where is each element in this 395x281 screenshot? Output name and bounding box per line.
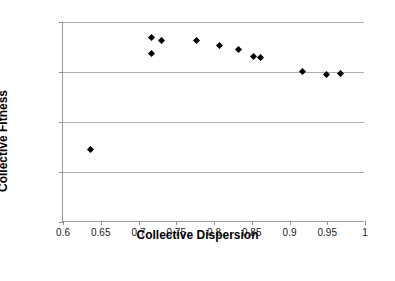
gridline-y-90 [63,22,364,23]
plot-area: 5060708090 0.60.650.70.750.80.850.90.951 [62,22,364,222]
x-tick-mark-0.9 [290,221,291,225]
chart-figure: 5060708090 0.60.650.70.750.80.850.90.951… [0,0,395,281]
y-tick-mark-60 [59,172,63,173]
y-tick-mark-80 [59,72,63,73]
y-tick-mark-70 [59,122,63,123]
gridline-y-60 [63,172,364,173]
scatter-point [87,145,94,152]
gridline-y-70 [63,122,364,123]
x-tick-mark-0.75 [176,221,177,225]
y-tick-mark-90 [59,22,63,23]
scatter-point [235,45,242,52]
scatter-point [257,53,264,60]
x-tick-mark-0.8 [214,221,215,225]
x-tick-mark-0.85 [252,221,253,225]
scatter-point [158,36,165,43]
x-tick-mark-0.65 [101,221,102,225]
scatter-point [216,41,223,48]
scatter-point [250,52,257,59]
gridline-y-80 [63,72,364,73]
y-axis-title: Collective Fitness [0,89,10,191]
scatter-point [193,36,200,43]
x-tick-mark-0.6 [63,221,64,225]
scatter-point [148,33,155,40]
scatter-point [337,69,344,76]
x-tick-mark-0.95 [327,221,328,225]
scatter-point [299,67,306,74]
x-axis-title: Collective Dispersion [0,228,395,242]
x-tick-mark-0.7 [139,221,140,225]
x-tick-mark-1 [365,221,366,225]
scatter-point [148,49,155,56]
